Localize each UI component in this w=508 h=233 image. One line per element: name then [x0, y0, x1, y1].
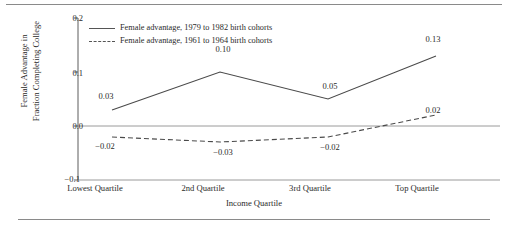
x-axis-title: Income Quartile: [0, 198, 508, 208]
y-axis-tick-label-0: 0.2: [57, 13, 83, 23]
series-line-1979-1982: [112, 56, 436, 110]
figure-container: 0.2 0.1 0.0 −0.1 Female Advantage in Fra…: [0, 0, 508, 233]
series-line-1961-1964: [112, 115, 436, 142]
data-label-1979-top: 0.13: [413, 34, 453, 44]
legend-solid-line-icon: [89, 24, 115, 32]
data-label-1979-2nd: 0.10: [203, 44, 243, 54]
y-axis-title-line-1: Female Advantage in: [19, 0, 31, 157]
data-label-1979-lowest: 0.03: [86, 91, 126, 101]
y-axis-title-line-2: Fraction Completing College: [31, 0, 43, 157]
chart-legend: Female advantage, 1979 to 1982 birth coh…: [89, 21, 272, 47]
legend-label-1979-1982: Female advantage, 1979 to 1982 birth coh…: [120, 21, 272, 34]
legend-label-1961-1964: Female advantage, 1961 to 1964 birth coh…: [120, 34, 272, 47]
y-axis-tick-label-2: 0.0: [57, 121, 83, 131]
x-axis-tick-label-3rd-quartile: 3rd Quartile: [255, 183, 365, 193]
data-label-1961-2nd: −0.03: [203, 147, 243, 157]
x-axis-tick-label-2nd-quartile: 2nd Quartile: [148, 183, 258, 193]
data-label-1961-top: 0.02: [413, 105, 453, 115]
y-axis-title: Female Advantage in Fraction Completing …: [19, 0, 49, 157]
x-axis-tick-label-top-quartile: Top Quartile: [362, 183, 472, 193]
x-axis-tick-label-lowest-quartile: Lowest Quartile: [40, 183, 150, 193]
legend-dashed-line-icon: [89, 37, 115, 45]
data-label-1961-lowest: −0.02: [85, 141, 125, 151]
y-axis-tick-label-1: 0.1: [57, 68, 83, 78]
data-label-1961-3rd: −0.02: [310, 142, 350, 152]
legend-item-1961-1964: Female advantage, 1961 to 1964 birth coh…: [89, 34, 272, 47]
legend-item-1979-1982: Female advantage, 1979 to 1982 birth coh…: [89, 21, 272, 34]
data-label-1979-3rd: 0.05: [310, 81, 350, 91]
